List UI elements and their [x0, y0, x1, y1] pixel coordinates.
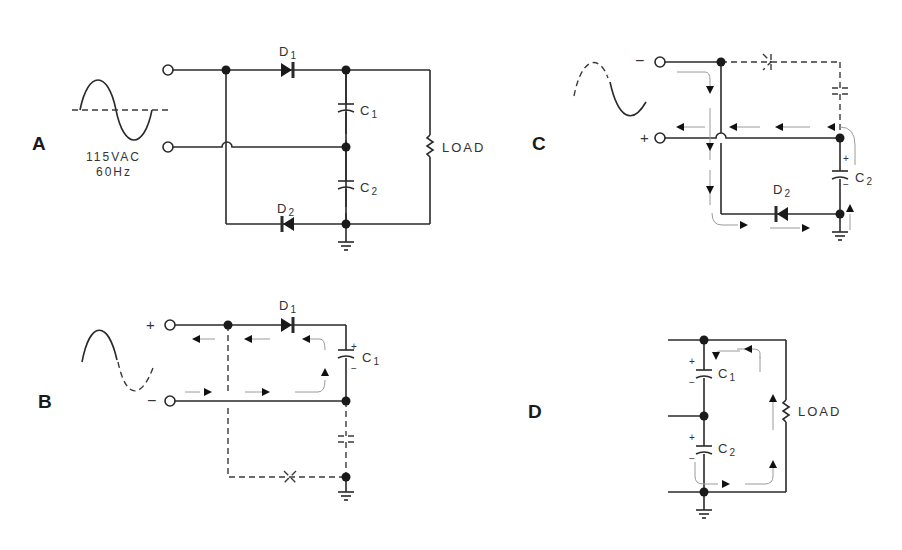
- svg-text:−: −: [635, 52, 646, 69]
- svg-text:+: +: [640, 129, 651, 146]
- ground-icon: [832, 232, 848, 240]
- panel-b-label: B: [38, 391, 52, 412]
- c2-label: C2: [360, 180, 379, 197]
- d2-label: D2: [277, 201, 296, 218]
- diode-d2-icon: [777, 207, 788, 221]
- sine-wave-icon: [82, 330, 117, 362]
- svg-text:−: −: [689, 453, 697, 464]
- diode-d1-icon: [281, 318, 292, 332]
- panel-a-label: A: [32, 133, 46, 154]
- panel-d: D + − + − C1 C2: [528, 336, 841, 519]
- panel-a: A 115VAC 60Hz: [32, 44, 485, 250]
- d2-label: D2: [773, 182, 792, 199]
- voltage-doubler-diagram: A 115VAC 60Hz: [0, 0, 902, 550]
- diode-d1-icon: [281, 63, 292, 77]
- terminal-top: [163, 65, 173, 75]
- c1-label: C1: [362, 350, 381, 367]
- svg-text:−: −: [843, 179, 851, 190]
- panel-c: C − +: [532, 52, 874, 240]
- c2-label: C2: [718, 441, 737, 458]
- d1-label: D1: [279, 298, 298, 315]
- ground-icon: [338, 242, 354, 250]
- svg-text:−: −: [147, 392, 158, 409]
- svg-text:−: −: [689, 377, 697, 388]
- svg-text:+: +: [843, 153, 851, 164]
- svg-text:+: +: [351, 341, 359, 352]
- source-freq-label: 60Hz: [96, 165, 132, 179]
- panel-b: B + − +: [38, 298, 381, 500]
- c1-label: C1: [360, 103, 379, 120]
- c1-label: C1: [718, 366, 737, 383]
- source-voltage-label: 115VAC: [86, 150, 141, 164]
- load-label: LOAD: [798, 404, 841, 419]
- d1-label: D1: [279, 44, 298, 61]
- panel-d-label: D: [528, 401, 542, 422]
- svg-text:+: +: [689, 356, 697, 367]
- panel-c-label: C: [532, 133, 546, 154]
- load-resistor-icon: [783, 400, 789, 422]
- c2-label: C2: [855, 170, 874, 187]
- ground-icon: [338, 492, 354, 500]
- svg-text:+: +: [146, 316, 157, 333]
- svg-text:+: +: [689, 432, 697, 443]
- terminal-bottom: [163, 142, 173, 152]
- sine-wave-dashed-icon: [574, 63, 608, 96]
- load-label: LOAD: [442, 140, 485, 155]
- diode-d2-icon: [283, 217, 294, 231]
- ground-icon: [696, 510, 712, 518]
- load-resistor-icon: [427, 135, 433, 157]
- svg-text:−: −: [351, 363, 359, 374]
